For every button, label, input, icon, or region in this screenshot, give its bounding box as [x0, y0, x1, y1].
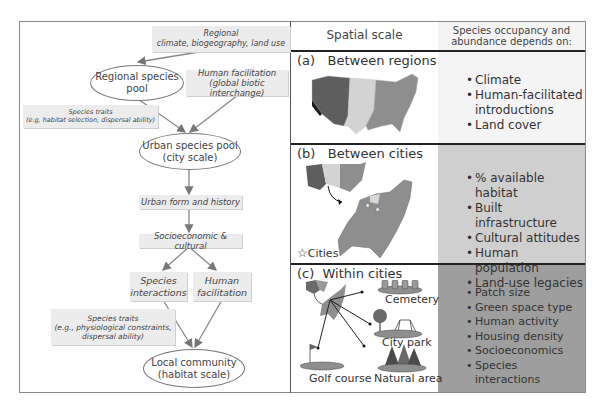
city-star-icon: ★	[364, 201, 371, 210]
box-line: (e.g., physiological constraints,	[54, 323, 171, 332]
site-cemetery: Cemetery	[385, 293, 439, 306]
cities-legend: ☆Cities	[297, 246, 338, 260]
regional-species-pool: Regional species pool	[90, 65, 184, 101]
header-rule	[291, 50, 585, 52]
box-line: Human	[205, 275, 239, 286]
section-c-bullets: Patch size Green space type Human activi…	[466, 286, 584, 388]
box-line: Human facilitation	[198, 68, 276, 78]
human-facilitation-global-box: Human facilitation (global biotic interc…	[186, 70, 288, 96]
bullet: Socioeconomics	[466, 344, 584, 359]
local-community: Local community (habitat scale)	[143, 349, 245, 388]
box-line: Species	[140, 275, 177, 286]
us-regions-map	[308, 70, 434, 142]
ellipse-line: (city scale)	[163, 152, 218, 164]
site-city-park: City park	[382, 336, 432, 349]
section-a-bullets: Climate Human-facilitated introductions …	[466, 73, 584, 133]
ellipse-line: Regional species	[95, 71, 179, 83]
bullet: Housing density	[466, 330, 584, 345]
bullet: Built infrastructure	[466, 201, 584, 231]
box-line: Socioeconomic & cultural	[139, 231, 242, 251]
header-text: Species occupancy and	[453, 25, 570, 37]
site-natural-area: Natural area	[374, 372, 443, 385]
bullet: Human activity	[466, 315, 584, 330]
section-b-label: (b) Between cities	[297, 146, 423, 161]
bullet: Cultural attitudes	[466, 231, 584, 246]
header-text: abundance depends on:	[451, 36, 572, 48]
bullet: % available habitat	[466, 171, 584, 201]
bullet: Land cover	[466, 118, 584, 133]
header-depends-on: Species occupancy and abundance depends …	[438, 22, 585, 50]
header-spatial-scale: Spatial scale	[291, 22, 438, 50]
ellipse-line: Local community	[151, 357, 237, 369]
header-text: Spatial scale	[326, 29, 402, 43]
box-line: (global biotic interchange)	[186, 78, 288, 98]
section-c-label: (c) Within cities	[297, 266, 402, 281]
legend-label: Cities	[308, 247, 339, 260]
species-traits-regional-box: Species traits (e.g, habitat selection, …	[23, 105, 158, 128]
box-line: climate, biogeography, land use	[157, 39, 285, 49]
ellipse-line: pool	[126, 83, 147, 95]
socioeconomic-box: Socioeconomic & cultural	[139, 234, 242, 248]
section-b-bullets: % available habitat Built infrastructure…	[466, 171, 584, 291]
star-outline-icon: ☆	[297, 246, 308, 260]
species-traits-local-box: Species traits (e.g., physiological cons…	[51, 309, 175, 345]
site-golf-course: Golf course	[309, 372, 371, 385]
ellipse-line: (habitat scale)	[158, 369, 230, 381]
city-star-icon: ★	[374, 205, 381, 214]
bullet: Climate	[466, 73, 584, 88]
bullet: Green space type	[466, 301, 584, 316]
section-a-label: (a) Between regions	[297, 53, 436, 68]
box-line: Species traits	[88, 314, 139, 323]
ellipse-line: Urban species pool	[142, 140, 237, 152]
bullet: Human population	[466, 246, 584, 276]
species-interactions-box: Species interactions	[130, 272, 187, 301]
urban-species-pool: Urban species pool (city scale)	[139, 133, 241, 170]
bullet: Human-facilitated introductions	[466, 88, 584, 118]
urban-form-box: Urban form and history	[139, 195, 242, 209]
box-line: facilitation	[197, 287, 247, 298]
box-line: (e.g, habitat selection, dispersal abili…	[26, 117, 155, 125]
box-line: Regional	[204, 29, 239, 39]
bullet: Species interactions	[466, 359, 584, 388]
box-line: Urban form and history	[141, 197, 240, 207]
bullet: Patch size	[466, 286, 584, 301]
regional-drivers-box: Regional climate, biogeography, land use	[152, 26, 290, 52]
box-line: interactions	[130, 287, 186, 298]
box-line: dispersal ability)	[82, 332, 144, 341]
human-facilitation-local-box: Human facilitation	[193, 272, 251, 301]
section-rule-ab	[291, 143, 585, 145]
